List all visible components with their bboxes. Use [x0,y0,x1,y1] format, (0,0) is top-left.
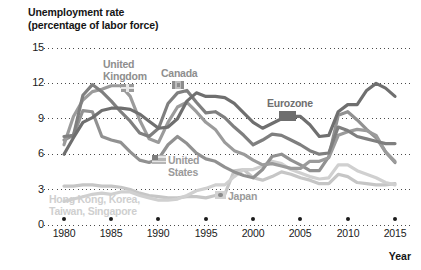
x-axis-label: Year [389,250,411,262]
series-label-japan: Japan [228,191,257,203]
series-label-canada-text: Canada [161,67,197,79]
eu-flag-icon [279,111,296,121]
y-tick-9: 9 [22,112,44,124]
x-tick-dot-2015 [393,217,397,221]
series-label-eurozone: Eurozone [267,98,313,110]
x-tick-dot-2010 [346,217,350,221]
x-tick-2015: 2015 [373,227,417,239]
series-label-united-states-line1: United [168,154,199,166]
canada-flag-icon [172,81,184,89]
series-label-canada: Canada [161,68,197,80]
x-tick-dot-2000 [251,217,255,221]
series-label-united-kingdom-line1: United [103,58,134,70]
y-tick-15: 15 [22,41,44,53]
x-tick-dot-1995 [204,217,208,221]
x-tick-dot-1990 [156,217,160,221]
x-tick-2005: 2005 [278,227,322,239]
y-tick-6: 6 [22,147,44,159]
x-tick-1980: 1980 [42,227,86,239]
series-label-asian-tigers-line2: Taiwan, Singapore [49,205,137,217]
x-tick-1990: 1990 [136,227,180,239]
chart-canvas: Unemployment rate (percentage of labor f… [0,0,421,270]
series-label-asian-tigers-line1: Hong Kong, Korea, [49,193,140,205]
x-tick-2010: 2010 [326,227,370,239]
x-tick-dot-1985 [109,217,113,221]
x-tick-2000: 2000 [231,227,275,239]
y-tick-12: 12 [22,76,44,88]
x-tick-dot-2005 [298,217,302,221]
series-label-japan-text: Japan [228,190,257,202]
y-tick-0: 0 [22,218,44,230]
series-label-united-states-line2: States [168,166,198,178]
x-tick-dot-1980 [62,217,66,221]
series-label-asian-tigers: Hong Kong, Korea, Taiwan, Singapore [49,194,140,217]
series-label-united-kingdom: United Kingdom [103,59,147,82]
series-label-united-states: United States [168,155,199,178]
y-tick-3: 3 [22,183,44,195]
us-flag-icon [152,155,166,164]
x-tick-1995: 1995 [184,227,228,239]
series-label-eurozone-text: Eurozone [267,97,313,109]
series-line-canada [64,85,395,155]
series-label-united-kingdom-line2: Kingdom [103,70,147,82]
series-line-united-kingdom [64,86,395,169]
uk-flag-icon [121,84,134,92]
japan-flag-icon [215,191,226,199]
x-tick-1985: 1985 [89,227,133,239]
